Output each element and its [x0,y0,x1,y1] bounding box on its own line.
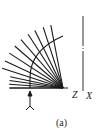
up-arrow-icon [26,91,34,110]
fan-rays [2,25,63,88]
label-z: Z [72,90,78,100]
label-x: X [86,91,92,101]
figure-caption: (a) [56,118,67,128]
fan-diagram [0,0,108,138]
